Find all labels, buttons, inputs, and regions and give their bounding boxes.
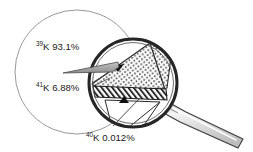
hatched-slice-41k	[93, 86, 167, 100]
label-k41-value: 6.88%	[52, 82, 80, 93]
label-k40-value: 0.012%	[102, 132, 135, 143]
label-k41: 41K 6.88%	[36, 81, 80, 93]
label-k39-value: 93.1%	[52, 41, 80, 52]
figure-canvas: 39K 93.1% 41K 6.88% 40K 0.012%	[0, 0, 253, 152]
isotope-abundance-figure: 39K 93.1% 41K 6.88% 40K 0.012%	[0, 0, 253, 152]
label-k40: 40K 0.012%	[86, 131, 135, 143]
label-k39: 39K 93.1%	[36, 40, 80, 52]
